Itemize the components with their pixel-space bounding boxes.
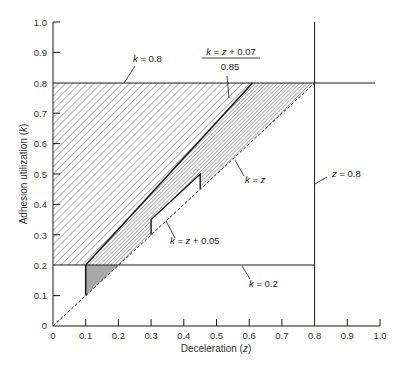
svg-text:0.8: 0.8	[34, 78, 47, 89]
adhesion-diagram: 1.0 0.9 0.8 0.7 0.6 0.5 0.4 0.3 0.2 0.1 …	[0, 0, 406, 367]
x-axis	[53, 319, 380, 326]
leader-k-z	[235, 160, 244, 176]
y-tick-labels: 1.0 0.9 0.8 0.7 0.6 0.5 0.4 0.3 0.2 0.1 …	[34, 17, 47, 332]
svg-text:0.6: 0.6	[34, 138, 47, 149]
svg-text:0.8: 0.8	[308, 330, 321, 341]
annotation-k-0.2: k = 0.2	[249, 278, 278, 289]
svg-text:0.1: 0.1	[79, 330, 92, 341]
y-axis-title: Adhesion utilization (k)	[18, 124, 29, 225]
svg-text:1.0: 1.0	[34, 17, 47, 28]
svg-text:0.9: 0.9	[34, 47, 47, 58]
svg-text:0.5: 0.5	[210, 330, 223, 341]
annotation-z-0.8: z = 0.8	[331, 168, 361, 179]
svg-text:0: 0	[50, 330, 55, 341]
annotation-k-0.8: k = 0.8	[133, 53, 162, 64]
leader-k-0.8	[124, 66, 135, 83]
svg-text:0.85: 0.85	[221, 61, 240, 72]
svg-text:0.4: 0.4	[34, 199, 47, 210]
annotation-k-equals-z: k = z	[245, 174, 266, 185]
svg-text:0.3: 0.3	[144, 330, 157, 341]
svg-text:0.4: 0.4	[177, 330, 190, 341]
upper-hatched-region	[53, 83, 253, 265]
x-axis-title: Deceleration (z)	[181, 343, 252, 354]
x-tick-labels: 0 0.1 0.2 0.3 0.4 0.5 0.6 0.7 0.8 0.9 1.…	[50, 330, 386, 341]
svg-text:0: 0	[42, 320, 47, 331]
svg-text:0.7: 0.7	[275, 330, 288, 341]
svg-text:0.6: 0.6	[243, 330, 256, 341]
annotation-k-z-plus-0.05: k = z + 0.05	[170, 235, 220, 246]
y-axis	[53, 22, 60, 326]
svg-text:0.7: 0.7	[34, 108, 47, 119]
svg-text:0.1: 0.1	[34, 290, 47, 301]
svg-text:0.9: 0.9	[341, 330, 354, 341]
svg-text:k = z + 0.07: k = z + 0.07	[206, 46, 256, 57]
svg-text:0.2: 0.2	[112, 330, 125, 341]
svg-text:1.0: 1.0	[373, 330, 386, 341]
svg-text:0.2: 0.2	[34, 260, 47, 271]
leader-z-0.8	[315, 177, 327, 184]
annotation-fraction: k = z + 0.07 0.85	[202, 46, 260, 72]
svg-text:0.3: 0.3	[34, 230, 47, 241]
svg-text:0.5: 0.5	[34, 169, 47, 180]
